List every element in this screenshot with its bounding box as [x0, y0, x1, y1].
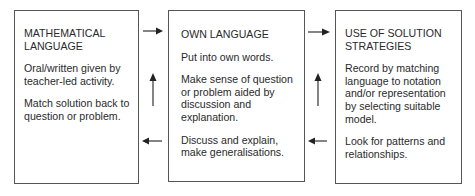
- box-title: USE OF SOLUTION STRATEGIES: [345, 27, 455, 52]
- arrow-left-icon: [142, 138, 162, 145]
- box-paragraph: Oral/written given by teacher-led activi…: [24, 62, 132, 87]
- box-mathematical-language: MATHEMATICAL LANGUAGE Oral/written given…: [14, 10, 139, 184]
- box-title: OWN LANGUAGE: [181, 28, 298, 41]
- title-line: USE OF SOLUTION: [345, 27, 442, 39]
- box-use-of-solution-strategies: USE OF SOLUTION STRATEGIES Record by mat…: [335, 10, 462, 184]
- arrow-up-icon: [315, 73, 322, 106]
- arrow-right-icon: [143, 28, 163, 35]
- arrow-right-icon: [308, 29, 330, 36]
- title-line: MATHEMATICAL: [24, 27, 105, 39]
- box-own-language: OWN LANGUAGE Put into own words. Make se…: [168, 10, 305, 182]
- arrow-left-icon: [308, 138, 327, 145]
- arrow-up-icon: [150, 73, 157, 106]
- box-title: MATHEMATICAL LANGUAGE: [24, 27, 132, 52]
- box-paragraph: Record by matching language to notation …: [345, 62, 455, 125]
- title-line: STRATEGIES: [345, 40, 411, 52]
- title-line: LANGUAGE: [24, 40, 83, 52]
- box-paragraph: Look for patterns and relationships.: [345, 135, 455, 160]
- box-paragraph: Put into own words.: [181, 51, 298, 64]
- box-paragraph: Discuss and explain, make generalisation…: [181, 134, 298, 159]
- box-paragraph: Make sense of question or problem aided …: [181, 73, 298, 123]
- box-paragraph: Match solution back to question or probl…: [24, 97, 132, 122]
